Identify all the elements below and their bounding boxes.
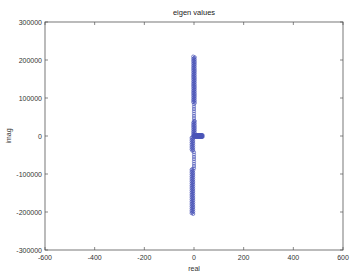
- x-tick-label: -200: [137, 254, 151, 261]
- x-tick-label: -600: [38, 254, 52, 261]
- y-tick-label: 300000: [19, 19, 42, 26]
- y-tick-labels: -300000-200000-1000000100000200000300000: [16, 19, 42, 254]
- y-tick-label: -300000: [16, 247, 42, 254]
- x-tick-label: 600: [337, 254, 349, 261]
- y-axis-label: imag: [5, 128, 13, 143]
- x-tick-label: 400: [287, 254, 299, 261]
- y-tick-label: -200000: [16, 209, 42, 216]
- y-tick-label: 200000: [19, 57, 42, 64]
- chart-title: eigen values: [173, 8, 215, 17]
- x-tick-label: 200: [238, 254, 250, 261]
- y-tick-label: 0: [38, 133, 42, 140]
- y-tick-label: 100000: [19, 95, 42, 102]
- eigenvalue-scatter-chart: eigen values -600-400-2000200400600 -300…: [0, 0, 355, 275]
- y-tick-label: -100000: [16, 171, 42, 178]
- x-tick-label: 0: [192, 254, 196, 261]
- x-tick-labels: -600-400-2000200400600: [38, 254, 349, 261]
- x-tick-label: -400: [88, 254, 102, 261]
- plot-area: [190, 55, 204, 216]
- x-axis-label: real: [188, 265, 200, 272]
